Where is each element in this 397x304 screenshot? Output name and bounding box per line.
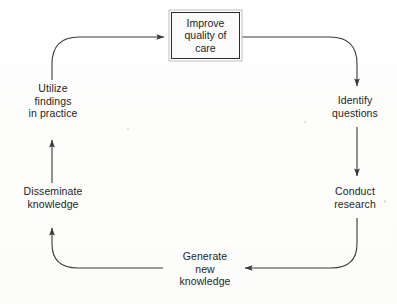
- node-improve-quality-of-care-label: Improve quality of care: [172, 13, 239, 58]
- node-conduct-research: Conduct research: [313, 185, 397, 210]
- edge-improve-to-identify: [241, 37, 357, 86]
- node-identify-questions: Identify questions: [313, 94, 397, 119]
- node-improve-quality-of-care: Improve quality of care: [171, 12, 240, 59]
- node-utilize-findings-in-practice: Utilize findings in practice: [8, 82, 98, 120]
- cycle-diagram: Improve quality of care Identify questio…: [0, 0, 397, 304]
- edge-conduct-to-generate: [245, 218, 357, 268]
- edge-utilize-to-improve: [52, 37, 164, 80]
- edge-generate-to-disseminate: [52, 228, 163, 268]
- node-generate-new-knowledge: Generate new knowledge: [163, 250, 247, 288]
- node-disseminate-knowledge: Disseminate knowledge: [6, 185, 100, 210]
